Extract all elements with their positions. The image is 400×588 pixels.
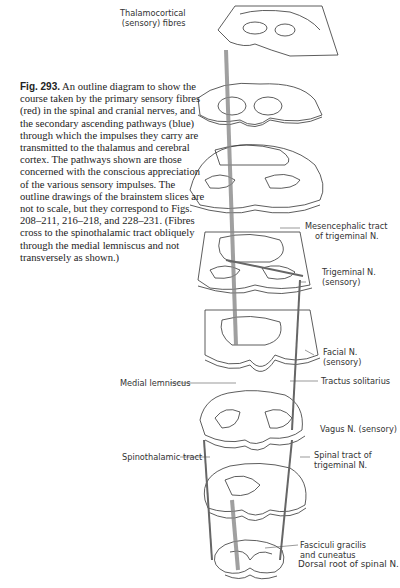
slice-pons-trigeminal <box>198 232 312 294</box>
slice-thalamus <box>218 6 338 56</box>
label-medial-lemniscus: Medial lemniscus <box>120 379 190 389</box>
label-dorsal-root: Dorsal root of spinal N. <box>298 560 399 570</box>
label-trigeminal-nerve: Trigeminal N. (sensory) <box>322 268 376 287</box>
slice-midbrain-upper <box>198 83 322 126</box>
label-mesencephalic-tract: Mesencephalic tract of trigeminal N. <box>305 222 388 241</box>
label-thalamocortical: Thalamocortical (sensory) fibres <box>120 9 186 28</box>
slice-medulla-lower <box>204 463 306 520</box>
label-fasciculi: Fasciculi gracilis and cuneatus <box>300 541 366 560</box>
slice-pons-facial <box>205 310 320 371</box>
label-tractus-solitarius: Tractus solitarius <box>321 377 390 387</box>
slice-pons-upper <box>190 145 323 213</box>
figure-caption: Fig. 293. An outline diagram to show the… <box>20 81 205 264</box>
caption-text: An outline diagram to show the course ta… <box>20 81 204 263</box>
slice-medulla-vagus <box>200 391 305 451</box>
label-spinothalamic-tract: Spinothalamic tract <box>122 453 202 463</box>
slice-spinal-cord <box>214 540 283 579</box>
figure-number: Fig. 293. <box>20 81 60 92</box>
label-facial-nerve: Facial N. (sensory) <box>323 348 361 367</box>
label-spinal-tract-trigeminal: Spinal tract of trigeminal N. <box>314 451 372 470</box>
label-vagus-nerve: Vagus N. (sensory) <box>320 425 397 435</box>
